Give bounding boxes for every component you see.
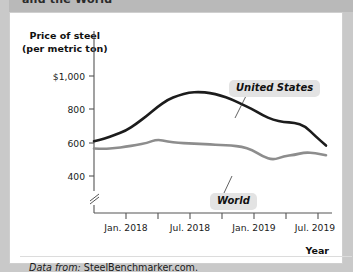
page-title: and the World <box>22 0 112 6</box>
source-note: Data from: SteelBenchmarker.com. <box>29 262 198 272</box>
figure-title-bar: and the World <box>0 0 353 12</box>
leader-line-united-states <box>235 96 246 118</box>
x-tick-group <box>126 213 318 219</box>
footer-divider <box>20 256 352 257</box>
figure-root: and the World Price of steel (per metric… <box>0 0 353 272</box>
source-prefix: Data from: <box>29 262 81 272</box>
line-chart-plot: $1,000 800 600 400 Jan. 2018 Jul. 2018 J… <box>10 13 344 265</box>
y-tick-group <box>89 76 94 176</box>
leader-line-world <box>224 176 232 193</box>
annotation-united-states: United States <box>229 80 320 97</box>
y-tick-label-800: 800 <box>67 104 85 115</box>
x-tick-label-jul-2018: Jul. 2018 <box>169 222 210 233</box>
y-tick-label-400: 400 <box>67 171 85 182</box>
x-axis-title: Year <box>305 245 329 256</box>
x-tick-label-jan-2018: Jan. 2018 <box>103 222 148 233</box>
y-tick-label-1000: $1,000 <box>53 71 85 82</box>
y-tick-label-600: 600 <box>67 138 85 149</box>
series-line-united-states <box>94 92 326 145</box>
source-name: SteelBenchmarker.com. <box>84 262 198 272</box>
left-gutter <box>0 0 9 272</box>
x-tick-label-jul-2019: Jul. 2019 <box>294 222 335 233</box>
figure-card: Price of steel (per metric ton) $1,000 <box>9 12 343 264</box>
y-axis-break-icon <box>90 191 99 205</box>
series-line-world <box>94 140 326 159</box>
annotation-world: World <box>210 193 257 210</box>
x-tick-label-jan-2019: Jan. 2019 <box>231 222 276 233</box>
